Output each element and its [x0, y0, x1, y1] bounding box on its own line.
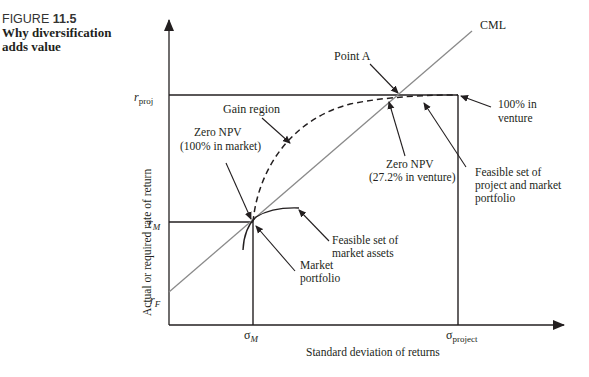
sigma-m-label: σM [244, 328, 258, 344]
r-proj-label: rproj [134, 90, 153, 106]
arrow-point-a [370, 64, 398, 93]
venture-100-label: 100% in venture [498, 98, 540, 124]
arrow-gain-region [262, 118, 290, 143]
feasible-market-label: Feasible set of market assets [332, 234, 401, 259]
sigma-project-label: σproject [446, 328, 478, 344]
point-a-label: Point A [334, 49, 371, 63]
arrow-feasible-market [299, 210, 329, 241]
gain-region-label: Gain region [223, 102, 280, 116]
y-axis-title: Actual or required rate of return [141, 169, 154, 316]
feasible-project-label: Feasible set of project and market portf… [475, 166, 564, 205]
arrow-market-portfolio [256, 226, 295, 271]
cml-label: CML [480, 18, 506, 32]
zero-npv-venture-label: Zero NPV (27.2% in venture) [369, 158, 456, 184]
diagram-canvas: rproj rM rF σM σproject Standard deviati… [0, 0, 589, 377]
arrow-zero-npv-market [226, 163, 251, 219]
arrow-zero-npv-venture [389, 102, 405, 156]
x-axis-title: Standard deviation of returns [306, 346, 440, 358]
market-portfolio-label: Market portfolio [300, 259, 340, 285]
arrow-100-venture [461, 96, 491, 107]
zero-npv-market-label: Zero NPV (100% in market) [180, 126, 261, 153]
